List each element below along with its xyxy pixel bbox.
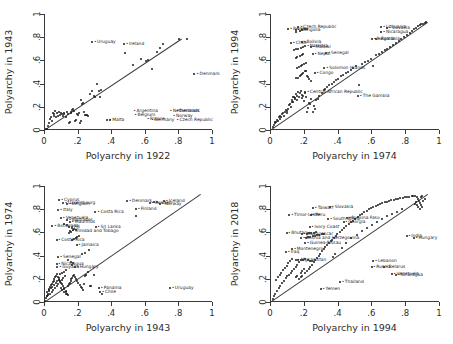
data-point: [312, 111, 314, 113]
x-tick-label: 1: [436, 308, 441, 318]
data-point: [400, 38, 402, 40]
x-axis-title: Polyarchy in 1943: [44, 322, 212, 333]
data-point: [63, 271, 65, 273]
x-tick-label: .6: [367, 136, 375, 146]
data-point: [318, 95, 320, 97]
x-axis-line: [270, 301, 439, 302]
y-tick-label: .4: [258, 80, 268, 88]
x-tick-label: .2: [74, 308, 82, 318]
data-point: [54, 287, 56, 289]
data-point: [366, 227, 368, 229]
data-point: [363, 211, 365, 213]
y-tick-label: .2: [258, 103, 268, 111]
x-tick: [111, 302, 112, 306]
point-label: Hungary: [415, 235, 437, 239]
data-point: [124, 52, 126, 54]
data-point: [100, 89, 102, 91]
data-point: [403, 36, 405, 38]
data-point: [272, 126, 274, 128]
x-axis-title: Polyarchy in 1994: [270, 322, 439, 333]
data-point: [91, 90, 93, 92]
data-point: [44, 300, 46, 302]
y-tick-label: .6: [258, 228, 268, 236]
data-point: [372, 65, 374, 67]
data-point: [357, 95, 359, 97]
data-point: [94, 211, 96, 213]
data-point: [375, 54, 377, 56]
point-label: Iraq: [288, 250, 300, 254]
data-point: [293, 268, 295, 270]
x-tick-label: .8: [174, 136, 182, 146]
x-tick: [338, 302, 339, 306]
x-tick-label: .6: [141, 308, 149, 318]
point-label: Senegal: [60, 255, 81, 259]
data-point: [392, 44, 394, 46]
data-point: [305, 96, 307, 98]
data-point: [301, 275, 303, 277]
point-label: Yemen: [322, 287, 340, 291]
data-point: [310, 80, 312, 82]
y-tick-label: .8: [258, 33, 268, 41]
data-point: [300, 276, 302, 278]
x-tick-label: 0: [267, 308, 272, 318]
data-point: [295, 276, 297, 278]
data-point: [305, 70, 307, 72]
x-tick-label: .8: [401, 136, 409, 146]
data-point: [67, 294, 69, 296]
x-tick-label: 0: [41, 136, 46, 146]
data-point: [83, 283, 85, 285]
data-point: [75, 119, 77, 121]
y-tick-label: 0: [258, 299, 268, 304]
data-point: [50, 116, 52, 118]
data-point: [306, 270, 308, 272]
y-tick-label: .2: [32, 103, 42, 111]
plot-area: 0.2.4.6.810.2.4.6.81Polyarchy in 1994Pol…: [270, 186, 439, 302]
data-point: [303, 268, 305, 270]
y-tick-label: .8: [258, 205, 268, 213]
data-point: [274, 293, 276, 295]
data-point: [186, 38, 188, 40]
data-point: [83, 111, 85, 113]
data-point: [341, 247, 343, 249]
plot-area: 0.2.4.6.810.2.4.6.81Polyarchy in 1943Pol…: [44, 186, 212, 302]
data-point: [279, 274, 281, 276]
x-tick-label: 1: [209, 308, 214, 318]
x-tick-label: 0: [41, 308, 46, 318]
point-label: Afghanistan: [297, 258, 326, 262]
data-point: [303, 100, 305, 102]
data-point: [277, 120, 279, 122]
data-point: [386, 215, 388, 217]
point-label: Thailand: [342, 279, 364, 283]
data-point: [289, 103, 291, 105]
data-point: [53, 113, 55, 115]
point-label: Chile: [102, 290, 116, 294]
data-point: [59, 273, 61, 275]
point-label: Georgia: [345, 220, 365, 224]
data-point: [361, 230, 363, 232]
data-point: [286, 265, 288, 267]
data-point: [296, 99, 298, 101]
x-tick: [145, 130, 146, 134]
data-point: [411, 30, 413, 32]
point-label: Ivory Coast: [311, 225, 339, 229]
data-point: [409, 32, 411, 34]
x-tick-label: 1: [209, 136, 214, 146]
data-point: [281, 282, 283, 284]
y-tick-label: .8: [32, 205, 42, 213]
data-point: [81, 253, 83, 255]
data-point: [305, 62, 307, 64]
y-axis-line: [44, 14, 45, 130]
data-point: [285, 277, 287, 279]
x-tick-label: 1: [436, 136, 441, 146]
data-point: [343, 227, 345, 229]
data-point: [296, 275, 298, 277]
data-point: [331, 83, 333, 85]
data-point: [289, 260, 291, 262]
x-tick: [178, 302, 179, 306]
point-label: Czech Republic: [176, 117, 213, 121]
panel-top-right: 0.2.4.6.810.2.4.6.81Polyarchy in 1974Pol…: [226, 0, 453, 172]
data-point: [87, 115, 89, 117]
y-tick-label: 0: [258, 127, 268, 132]
y-axis-line: [44, 186, 45, 302]
panel-bottom-right: 0.2.4.6.810.2.4.6.81Polyarchy in 1994Pol…: [226, 172, 453, 344]
